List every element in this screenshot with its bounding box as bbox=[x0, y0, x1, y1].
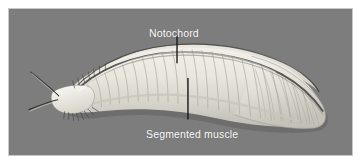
notochord-label: Notochord bbox=[149, 27, 199, 39]
figure-root: Notochord Segmented muscle bbox=[0, 0, 361, 164]
figure-frame: Notochord Segmented muscle bbox=[8, 8, 353, 156]
segmented-muscle-label: Segmented muscle bbox=[146, 128, 238, 140]
